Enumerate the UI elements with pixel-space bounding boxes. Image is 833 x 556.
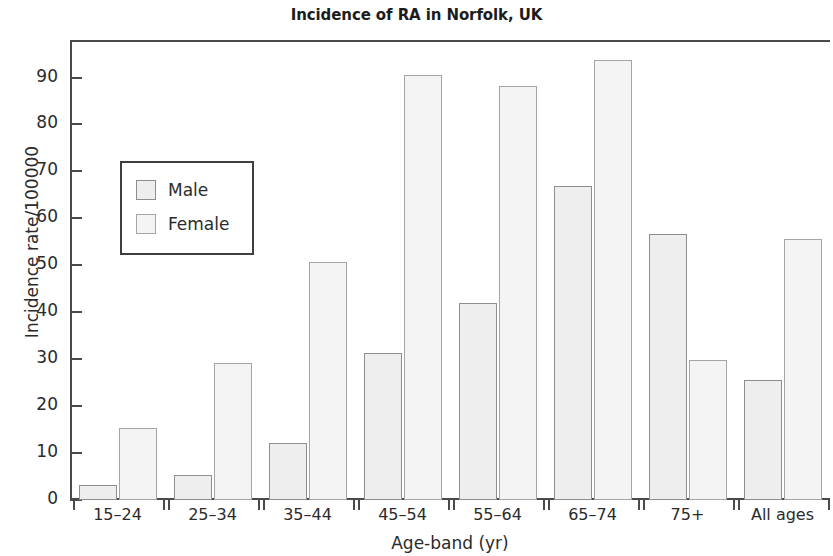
bar-female bbox=[404, 75, 442, 500]
bar-male bbox=[364, 353, 402, 500]
y-tick-label: 80 bbox=[0, 112, 58, 132]
y-tick-label: 50 bbox=[0, 253, 58, 273]
bar-female bbox=[214, 363, 252, 500]
legend-label-female: Female bbox=[168, 214, 229, 234]
y-tick-mark bbox=[70, 217, 82, 219]
chart-figure: Incidence of RA in Norfolk, UK Incidence… bbox=[0, 0, 833, 556]
x-tick-label: 15–24 bbox=[70, 505, 165, 524]
x-tick-label: 75+ bbox=[640, 505, 735, 524]
bar-female bbox=[594, 60, 632, 500]
chart-title: Incidence of RA in Norfolk, UK bbox=[0, 6, 833, 24]
x-axis-title: Age-band (yr) bbox=[70, 533, 830, 553]
y-tick-mark bbox=[70, 264, 82, 266]
bar-female bbox=[499, 86, 537, 500]
bar-male bbox=[269, 443, 307, 500]
x-tick-label: 55–64 bbox=[450, 505, 545, 524]
y-tick-label: 60 bbox=[0, 206, 58, 226]
bar-male bbox=[174, 475, 212, 500]
y-tick-mark bbox=[70, 123, 82, 125]
legend-item-male: Male bbox=[136, 179, 208, 201]
bar-female bbox=[119, 428, 157, 500]
bar-male bbox=[459, 303, 497, 500]
y-tick-label: 90 bbox=[0, 66, 58, 86]
x-tick-label: 65–74 bbox=[545, 505, 640, 524]
bar-female bbox=[309, 262, 347, 500]
bar-male bbox=[744, 380, 782, 500]
y-tick-label: 70 bbox=[0, 159, 58, 179]
y-tick-label: 20 bbox=[0, 394, 58, 414]
legend-item-female: Female bbox=[136, 213, 229, 235]
legend-swatch-male-icon bbox=[136, 180, 156, 200]
x-tick-label: 35–44 bbox=[260, 505, 355, 524]
y-tick-mark bbox=[70, 405, 82, 407]
y-tick-mark bbox=[70, 311, 82, 313]
y-tick-mark bbox=[70, 452, 82, 454]
bar-male bbox=[649, 234, 687, 500]
y-tick-label: 30 bbox=[0, 347, 58, 367]
y-axis-title: Incidence rate/100000 bbox=[22, 32, 42, 452]
x-tick-label: 25–34 bbox=[165, 505, 260, 524]
y-tick-label: 10 bbox=[0, 441, 58, 461]
legend-swatch-female-icon bbox=[136, 214, 156, 234]
bar-female bbox=[784, 239, 822, 500]
bar-male bbox=[79, 485, 117, 500]
bar-male bbox=[554, 186, 592, 500]
legend-label-male: Male bbox=[168, 180, 208, 200]
y-tick-label: 0 bbox=[0, 488, 58, 508]
y-tick-label: 40 bbox=[0, 300, 58, 320]
y-tick-mark bbox=[70, 170, 82, 172]
bar-female bbox=[689, 360, 727, 500]
x-tick-label: 45–54 bbox=[355, 505, 450, 524]
x-tick-label: All ages bbox=[735, 505, 830, 524]
y-tick-mark bbox=[70, 358, 82, 360]
y-tick-mark bbox=[70, 77, 82, 79]
chart-legend: Male Female bbox=[120, 161, 254, 255]
